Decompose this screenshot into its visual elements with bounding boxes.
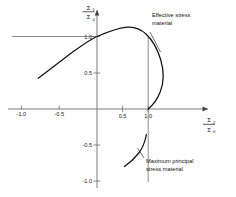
- x-tick-label-1.0: 1.0: [144, 113, 152, 119]
- y-tick-label--0.5: -0.5: [82, 142, 92, 148]
- y-tick-label-1.0: 1.0: [84, 34, 92, 40]
- y-axis-label: Σ 1 Σ 0: [83, 5, 96, 22]
- annotation-maximum-principal-stress: Maximum principal stress material: [146, 158, 193, 172]
- maximum-principal-stress-branch-curve: [125, 135, 147, 167]
- y-axis-label-denominator: Σ: [87, 14, 91, 20]
- x-tick-label--1.0: -1.0: [17, 111, 27, 117]
- x-axis-arrowhead: [203, 107, 209, 112]
- maximum-principal-stress-label-line2: stress material: [146, 166, 183, 172]
- annotation-effective-stress: Effective stress material: [152, 12, 191, 26]
- x-axis-label-numerator-subscript: 2: [213, 120, 216, 125]
- y-axis-label-numerator: Σ: [87, 5, 91, 11]
- figure-canvas: -1.0 -0.5 0.5 1.0 1.0 0.5 -0.5 -1.0 Σ 1 …: [0, 0, 236, 197]
- effective-stress-envelope-curve: [38, 27, 163, 109]
- x-axis-label-denominator-subscript: 0: [213, 129, 216, 134]
- x-tick-label--0.5: -0.5: [54, 111, 64, 117]
- data-curves: [38, 27, 163, 166]
- effective-stress-label-line1: Effective stress: [152, 12, 191, 18]
- stress-envelope-plot: -1.0 -0.5 0.5 1.0 1.0 0.5 -0.5 -1.0 Σ 1 …: [0, 0, 236, 197]
- y-axis-label-denominator-subscript: 0: [93, 17, 96, 22]
- x-axis-label-denominator: Σ: [207, 127, 211, 133]
- effective-stress-leader-line: [150, 32, 161, 52]
- x-tick-label-0.5: 0.5: [119, 113, 127, 119]
- x-axis-label: Σ 2 Σ 0: [203, 117, 216, 134]
- y-axis-arrowhead: [95, 10, 100, 16]
- y-tick-label--1.0: -1.0: [82, 178, 92, 184]
- x-axis-label-numerator: Σ: [207, 117, 211, 123]
- effective-stress-label-line2: material: [152, 20, 172, 26]
- y-axis-label-numerator-subscript: 1: [93, 7, 96, 12]
- y-tick-label-0.5: 0.5: [84, 70, 92, 76]
- x-tick-labels: -1.0 -0.5 0.5 1.0: [17, 111, 153, 119]
- maximum-principal-stress-label-line1: Maximum principal: [146, 158, 193, 164]
